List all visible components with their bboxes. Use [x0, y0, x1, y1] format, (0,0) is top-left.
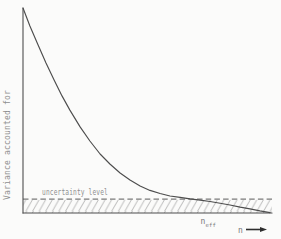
x-axis-label: n	[238, 226, 243, 235]
x-axis-arrow-icon	[246, 227, 267, 232]
n-eff-subscript: eff	[206, 222, 217, 228]
figure-canvas: Variance accounted for uncertainty level…	[0, 0, 281, 239]
y-axis-label: Variance accounted for	[3, 90, 12, 200]
figure-container: Variance accounted for uncertainty level…	[0, 0, 281, 239]
variance-curve	[23, 8, 270, 213]
uncertainty-level-label: uncertainty level	[42, 188, 108, 197]
n-eff-label: neff	[201, 217, 217, 228]
